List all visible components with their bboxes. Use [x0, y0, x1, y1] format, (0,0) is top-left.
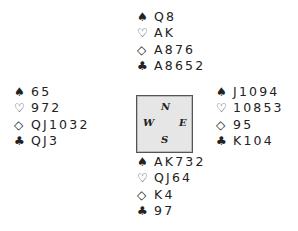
- north-diamonds: A876: [154, 42, 195, 57]
- south-spades: AK732: [154, 154, 206, 169]
- south-clubs: 97: [154, 203, 174, 218]
- north-clubs: A8652: [154, 58, 205, 73]
- west-spades: 65: [31, 84, 51, 99]
- compass-north-label: N: [161, 101, 170, 112]
- north-spades: Q8: [154, 9, 176, 24]
- east-spades-row: ♠J1094: [216, 84, 284, 100]
- west-clubs: QJ3: [31, 133, 59, 148]
- club-icon: ♣: [216, 133, 233, 149]
- south-spades-row: ♠AK732: [137, 154, 206, 170]
- south-diamonds: K4: [154, 187, 175, 202]
- south-hand: ♠AK732 ♡QJ64 ◇K4 ♣97: [137, 154, 206, 220]
- compass-south-label: S: [161, 134, 168, 145]
- club-icon: ♣: [137, 203, 154, 219]
- east-spades: J1094: [233, 84, 280, 99]
- west-diamonds: QJ1032: [31, 117, 90, 132]
- east-hearts: 10853: [233, 100, 284, 115]
- heart-icon: ♡: [14, 100, 31, 116]
- heart-icon: ♡: [216, 100, 233, 116]
- north-hearts: AK: [154, 25, 175, 40]
- north-spades-row: ♠Q8: [137, 9, 205, 25]
- west-diamonds-row: ◇QJ1032: [14, 117, 90, 133]
- east-diamonds: 95: [233, 117, 253, 132]
- west-spades-row: ♠65: [14, 84, 90, 100]
- west-clubs-row: ♣QJ3: [14, 133, 90, 149]
- north-hearts-row: ♡AK: [137, 25, 205, 41]
- diamond-icon: ◇: [216, 117, 233, 133]
- compass-box: N W E S: [136, 95, 193, 153]
- spade-icon: ♠: [216, 84, 233, 100]
- east-diamonds-row: ◇95: [216, 117, 284, 133]
- north-clubs-row: ♣A8652: [137, 58, 205, 74]
- west-hand: ♠65 ♡972 ◇QJ1032 ♣QJ3: [14, 84, 90, 150]
- compass-west-label: W: [143, 117, 154, 128]
- club-icon: ♣: [137, 58, 154, 74]
- east-hearts-row: ♡10853: [216, 100, 284, 116]
- heart-icon: ♡: [137, 170, 154, 186]
- north-hand: ♠Q8 ♡AK ◇A876 ♣A8652: [137, 9, 205, 75]
- south-diamonds-row: ◇K4: [137, 187, 206, 203]
- south-hearts-row: ♡QJ64: [137, 170, 206, 186]
- south-hearts: QJ64: [154, 170, 192, 185]
- club-icon: ♣: [14, 133, 31, 149]
- south-clubs-row: ♣97: [137, 203, 206, 219]
- diamond-icon: ◇: [137, 187, 154, 203]
- diamond-icon: ◇: [14, 117, 31, 133]
- spade-icon: ♠: [137, 9, 154, 25]
- east-clubs: K104: [233, 133, 274, 148]
- west-hearts-row: ♡972: [14, 100, 90, 116]
- east-clubs-row: ♣K104: [216, 133, 284, 149]
- compass-east-label: E: [179, 117, 187, 128]
- diamond-icon: ◇: [137, 42, 154, 58]
- north-diamonds-row: ◇A876: [137, 42, 205, 58]
- east-hand: ♠J1094 ♡10853 ◇95 ♣K104: [216, 84, 284, 150]
- spade-icon: ♠: [137, 154, 154, 170]
- heart-icon: ♡: [137, 25, 154, 41]
- west-hearts: 972: [31, 100, 61, 115]
- spade-icon: ♠: [14, 84, 31, 100]
